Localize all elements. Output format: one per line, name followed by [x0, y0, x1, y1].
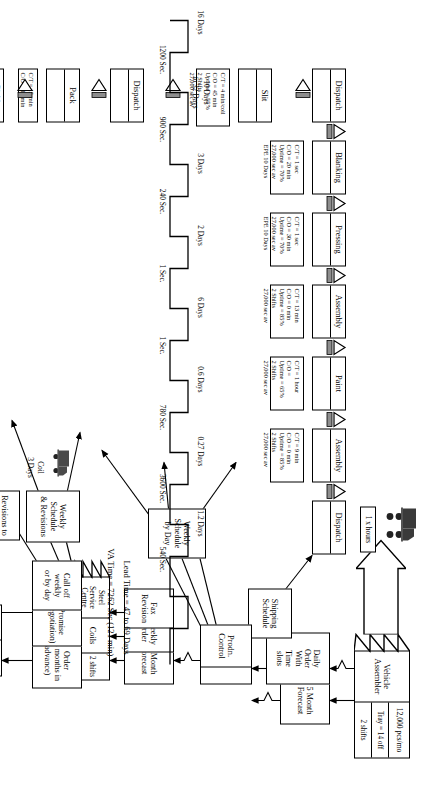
timeline-inventory-5: 2 Days	[195, 210, 204, 260]
timeline-ladder	[0, 0, 432, 797]
value-stream-map-canvas: Vehicle Assembler 12,000 pcs/mo Tray = 1…	[0, 0, 432, 797]
timeline-inventory-4: 6 Days	[195, 282, 204, 332]
timeline-process-time-3: 780 Sec.	[157, 392, 166, 442]
timeline-process-time-5: 1 Sec.	[157, 248, 166, 298]
timeline-process-time-8: 1200 Sec.	[157, 32, 166, 86]
timeline-inventory-7a: 10 Days	[201, 64, 210, 120]
timeline-process-time-7: 900 Sec.	[157, 104, 166, 154]
timeline-inventory-6: 3 Days	[195, 138, 204, 188]
summary-va-time: VA Time = 7262 Sec (121 min)	[106, 548, 116, 656]
timeline-inventory-3: 0.6 Days	[195, 354, 204, 404]
timeline-inventory-8: 16 Days	[195, 0, 204, 48]
timeline-process-time-6: 240 Sec.	[157, 176, 166, 226]
timeline-process-time-4: 1 Sec.	[157, 320, 166, 370]
timeline-inventory-2: 0.27 Days	[195, 424, 204, 478]
timeline-inventory-1: 1.2 Days	[195, 498, 204, 548]
timeline-process-time-2: 3600 Sec.	[157, 462, 166, 514]
summary-lead-time: Lead Time = 47 to 69 Days	[122, 560, 132, 654]
timeline-inventory-7b: to 32 Days	[190, 62, 199, 122]
timeline-process-time-1: 540 Sec.	[157, 534, 166, 584]
